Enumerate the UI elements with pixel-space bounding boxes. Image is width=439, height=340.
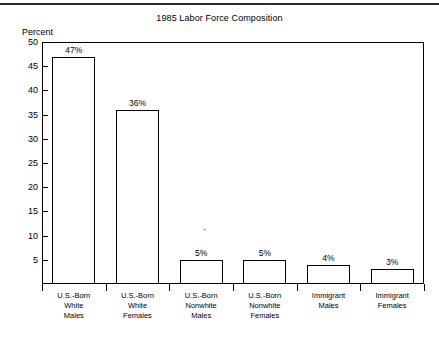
y-tick-mark <box>42 260 48 261</box>
x-tick-mark <box>424 284 425 291</box>
y-tick-label: 25 <box>0 158 38 168</box>
category-label: ImmigrantFemales <box>375 291 408 311</box>
y-tick-label: 15 <box>0 206 38 216</box>
category-label-line: U.S.-Born <box>121 291 154 301</box>
bar-value-label: 47% <box>65 45 82 55</box>
category-label-line: Immigrant <box>312 291 345 301</box>
y-tick-mark <box>42 163 48 164</box>
page-top-rule <box>0 3 439 5</box>
chart-title: 1985 Labor Force Composition <box>0 13 439 23</box>
bar <box>116 110 159 284</box>
y-tick-mark <box>42 187 48 188</box>
bar <box>52 57 95 284</box>
y-tick-mark <box>42 66 48 67</box>
x-tick-mark <box>106 284 107 291</box>
y-tick-label: 5 <box>0 255 38 265</box>
y-tick-label: 35 <box>0 110 38 120</box>
category-label-line: Males <box>312 301 345 311</box>
category-label-line: Females <box>248 311 281 321</box>
bar <box>307 265 350 284</box>
category-label-line: White <box>57 301 90 311</box>
bar <box>180 260 223 284</box>
bar-value-label: 5% <box>259 248 271 258</box>
category-label: ImmigrantMales <box>312 291 345 311</box>
x-tick-mark <box>360 284 361 291</box>
x-tick-mark <box>297 284 298 291</box>
category-label: U.S.-BornWhiteMales <box>57 291 90 321</box>
y-tick-label: 40 <box>0 85 38 95</box>
bar-value-label: 5% <box>195 248 207 258</box>
category-label: U.S.-BornNonwhiteMales <box>185 291 218 321</box>
category-label-line: Males <box>57 311 90 321</box>
scan-artifact-speck <box>203 228 206 231</box>
bar <box>243 260 286 284</box>
category-label-line: Immigrant <box>375 291 408 301</box>
y-tick-label: 20 <box>0 182 38 192</box>
bar-value-label: 36% <box>129 98 146 108</box>
category-label: U.S.-BornNonwhiteFemales <box>248 291 281 321</box>
bar-value-label: 3% <box>386 257 398 267</box>
y-tick-mark <box>42 115 48 116</box>
y-axis-label: Percent <box>22 27 53 37</box>
category-label-line: U.S.-Born <box>185 291 218 301</box>
y-tick-mark <box>42 236 48 237</box>
y-tick-label: 45 <box>0 61 38 71</box>
y-tick-label: 10 <box>0 231 38 241</box>
x-tick-mark <box>42 284 43 291</box>
category-label-line: Females <box>121 311 154 321</box>
x-tick-mark <box>169 284 170 291</box>
category-label-line: Nonwhite <box>248 301 281 311</box>
category-label-line: U.S.-Born <box>57 291 90 301</box>
y-tick-mark <box>42 139 48 140</box>
category-label: U.S.-BornWhiteFemales <box>121 291 154 321</box>
category-label-line: Males <box>185 311 218 321</box>
category-label-line: U.S.-Born <box>248 291 281 301</box>
plot-frame <box>42 42 424 284</box>
bar <box>371 269 414 284</box>
bar-value-label: 4% <box>322 253 334 263</box>
category-label-line: Females <box>375 301 408 311</box>
category-label-line: Nonwhite <box>185 301 218 311</box>
y-tick-mark <box>42 211 48 212</box>
y-tick-label: 50 <box>0 37 38 47</box>
category-label-line: White <box>121 301 154 311</box>
y-tick-mark <box>42 90 48 91</box>
y-tick-label: 30 <box>0 134 38 144</box>
x-tick-mark <box>233 284 234 291</box>
